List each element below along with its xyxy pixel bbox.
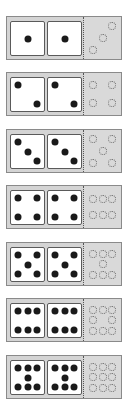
empty-circle-icon	[99, 260, 107, 268]
pip-icon	[70, 213, 77, 220]
empty-circle-icon	[89, 306, 97, 314]
empty-circle-icon	[89, 250, 97, 258]
pip-icon	[34, 384, 41, 391]
pip-icon	[70, 252, 77, 259]
empty-circle-icon	[89, 211, 97, 219]
empty-circle-icon	[108, 159, 116, 167]
die-right	[47, 303, 82, 338]
dotted-divider	[83, 186, 84, 228]
dice-card-1	[6, 16, 122, 60]
pip-icon	[52, 252, 59, 259]
pip-icon	[15, 195, 22, 202]
empty-slots-panel	[84, 186, 121, 228]
empty-slots-panel	[84, 356, 121, 398]
pip-icon	[33, 213, 40, 220]
pip-icon	[70, 195, 77, 202]
pip-icon	[14, 364, 21, 371]
die-right	[47, 190, 82, 225]
pip-icon	[24, 384, 31, 391]
pip-icon	[61, 308, 68, 315]
empty-slots-panel	[84, 130, 121, 172]
die-left	[10, 134, 45, 169]
pip-icon	[52, 270, 59, 277]
pip-icon	[70, 270, 77, 277]
pip-icon	[61, 261, 68, 268]
empty-circle-icon	[89, 363, 97, 371]
pip-icon	[70, 100, 77, 107]
pip-icon	[24, 364, 31, 371]
empty-circle-icon	[108, 271, 116, 279]
dotted-divider	[83, 243, 84, 285]
empty-circle-icon	[108, 250, 116, 258]
die-left	[10, 360, 45, 395]
pip-icon	[24, 308, 31, 315]
pip-icon	[52, 213, 59, 220]
empty-circle-icon	[89, 373, 97, 381]
pip-icon	[15, 252, 22, 259]
dice-card-6	[6, 298, 122, 342]
empty-circle-icon	[89, 384, 97, 392]
dotted-divider	[83, 17, 84, 59]
pip-icon	[52, 195, 59, 202]
empty-circle-icon	[108, 135, 116, 143]
empty-slots-panel	[84, 243, 121, 285]
pip-icon	[24, 148, 31, 155]
pip-icon	[52, 139, 59, 146]
pip-icon	[71, 384, 78, 391]
empty-circle-icon	[89, 271, 97, 279]
pip-icon	[15, 139, 22, 146]
pip-icon	[52, 82, 59, 89]
empty-circle-icon	[108, 99, 116, 107]
die-right	[47, 360, 82, 395]
pip-icon	[61, 35, 68, 42]
pip-icon	[61, 326, 68, 333]
pip-icon	[14, 326, 21, 333]
empty-slots-panel	[84, 17, 121, 59]
pip-icon	[71, 326, 78, 333]
dice-card-3	[6, 129, 122, 173]
pip-icon	[61, 364, 68, 371]
empty-circle-icon	[89, 99, 97, 107]
pip-icon	[14, 308, 21, 315]
pip-icon	[24, 326, 31, 333]
empty-circle-icon	[108, 306, 116, 314]
pip-icon	[61, 148, 68, 155]
die-right	[47, 21, 82, 56]
empty-circle-icon	[89, 81, 97, 89]
pip-icon	[33, 252, 40, 259]
pip-icon	[33, 195, 40, 202]
pip-icon	[51, 384, 58, 391]
empty-circle-icon	[99, 271, 107, 279]
empty-slots-panel	[84, 73, 121, 115]
dice-card-7	[6, 355, 122, 399]
pip-icon	[15, 82, 22, 89]
dice-card-2	[6, 72, 122, 116]
pip-icon	[51, 326, 58, 333]
empty-circle-icon	[108, 195, 116, 203]
empty-slots-panel	[84, 299, 121, 341]
empty-circle-icon	[99, 195, 107, 203]
dice-card-5	[6, 242, 122, 286]
empty-circle-icon	[89, 159, 97, 167]
dotted-divider	[83, 299, 84, 341]
die-right	[47, 134, 82, 169]
empty-circle-icon	[89, 316, 97, 324]
empty-circle-icon	[108, 211, 116, 219]
empty-circle-icon	[99, 363, 107, 371]
empty-circle-icon	[108, 81, 116, 89]
pip-icon	[70, 157, 77, 164]
die-left	[10, 247, 45, 282]
dotted-divider	[83, 130, 84, 172]
die-left	[10, 77, 45, 112]
empty-circle-icon	[89, 195, 97, 203]
die-left	[10, 21, 45, 56]
pip-icon	[24, 261, 31, 268]
pip-icon	[15, 270, 22, 277]
pip-icon	[34, 326, 41, 333]
die-left	[10, 190, 45, 225]
empty-circle-icon	[99, 373, 107, 381]
pip-icon	[34, 364, 41, 371]
empty-circle-icon	[108, 373, 116, 381]
empty-circle-icon	[99, 147, 107, 155]
die-right	[47, 77, 82, 112]
